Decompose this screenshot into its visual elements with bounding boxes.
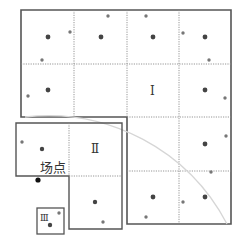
zone-i-label: Ⅰ	[150, 85, 155, 97]
zone-iii-points	[48, 211, 61, 227]
zone-iii-label: Ⅲ	[40, 214, 49, 223]
site-label: 场点	[40, 161, 66, 174]
diagram-canvas	[0, 0, 239, 244]
zone-ii-label: Ⅱ	[91, 143, 99, 155]
site-point	[35, 177, 40, 182]
